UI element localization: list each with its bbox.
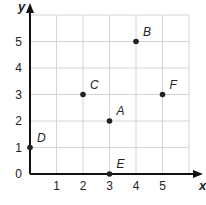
x-tick-label: 3	[106, 179, 113, 193]
point-C	[80, 92, 86, 98]
x-tick-label: 1	[53, 179, 60, 193]
x-axis-arrow-icon	[193, 170, 203, 178]
coordinate-plane: xy 12345012345 ABCDEF	[0, 0, 206, 205]
x-tick-label: 4	[133, 179, 140, 193]
x-axis-label: x	[198, 178, 206, 193]
point-E	[107, 171, 113, 177]
axes: xy	[17, 0, 206, 193]
y-tick-label: 3	[15, 88, 22, 102]
y-tick-label: 4	[15, 61, 22, 75]
point-label-E: E	[117, 157, 126, 171]
point-label-B: B	[143, 25, 151, 39]
y-tick-label: 5	[15, 35, 22, 49]
x-tick-label: 5	[159, 179, 166, 193]
point-F	[160, 92, 166, 98]
y-tick-label: 0	[15, 167, 22, 181]
y-tick-label: 1	[15, 141, 22, 155]
point-A	[107, 118, 113, 124]
point-label-C: C	[90, 78, 99, 92]
point-D	[27, 145, 33, 151]
point-label-A: A	[116, 104, 125, 118]
tick-labels: 12345012345	[15, 35, 166, 194]
point-B	[133, 39, 139, 45]
y-axis-arrow-icon	[26, 3, 34, 13]
x-tick-label: 2	[80, 179, 87, 193]
y-axis-label: y	[17, 0, 26, 14]
point-label-D: D	[37, 131, 46, 145]
data-points: ABCDEF	[27, 25, 177, 177]
point-label-F: F	[170, 78, 178, 92]
y-tick-label: 2	[15, 114, 22, 128]
